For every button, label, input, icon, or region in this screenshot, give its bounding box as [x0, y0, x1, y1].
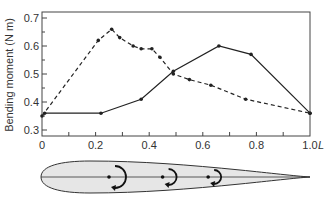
data-point — [249, 53, 253, 57]
x-tick-label: 0.8 — [249, 139, 264, 151]
data-point — [99, 111, 103, 115]
fish-body-diagram — [41, 161, 310, 193]
moment-point — [161, 175, 165, 179]
data-point — [96, 39, 100, 43]
y-tick-label: 0.7 — [24, 12, 39, 24]
data-point — [188, 78, 192, 82]
moment-point — [107, 175, 111, 179]
x-tick-label: 0 — [39, 139, 45, 151]
y-tick-label: 0.3 — [24, 124, 39, 136]
data-point — [118, 36, 122, 40]
data-point — [158, 55, 162, 59]
data-point — [244, 97, 248, 101]
data-point — [139, 47, 143, 51]
data-point — [308, 111, 312, 115]
series-layer — [40, 27, 312, 117]
y-tick-label: 0.6 — [24, 40, 39, 52]
data-point — [139, 97, 143, 101]
y-axis-title: Bending moment (N m) — [3, 18, 15, 132]
data-point — [217, 44, 221, 48]
x-axis-ticks: 00.20.40.60.81.0 — [39, 132, 318, 151]
y-tick-label: 0.4 — [24, 96, 39, 108]
solid-series-line — [45, 46, 310, 113]
x-axis-title: L — [318, 139, 324, 151]
x-tick-label: 0.6 — [195, 139, 210, 151]
data-point — [209, 83, 213, 87]
x-tick-label: 0.4 — [142, 139, 157, 151]
y-axis-ticks: 0.30.40.50.60.7 — [24, 12, 47, 136]
x-tick-label: 0.2 — [88, 139, 103, 151]
data-point — [150, 47, 154, 51]
data-point — [40, 114, 44, 118]
x-tick-label: 1.0 — [302, 139, 317, 151]
y-tick-label: 0.5 — [24, 68, 39, 80]
moment-point — [206, 175, 210, 179]
data-point — [131, 44, 135, 48]
bending-moment-chart: 0.30.40.50.60.7 00.20.40.60.81.0 Bending… — [0, 0, 335, 201]
data-point — [172, 72, 176, 76]
plot-frame — [42, 12, 310, 136]
data-point — [110, 27, 114, 31]
